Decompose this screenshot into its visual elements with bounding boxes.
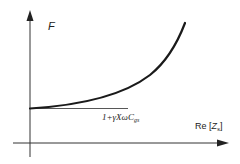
x-axis-label: Re [Zs] [195, 122, 223, 132]
x-axis-label-prefix: Re [195, 121, 207, 131]
y-axis-arrow-icon [27, 10, 34, 21]
x-axis-label-sub: s [217, 126, 220, 132]
asymptote-label-main: 1+γXωC [102, 112, 134, 122]
x-axis-arrow-icon [217, 140, 229, 147]
y-axis-label: F [48, 21, 55, 32]
f-curve [30, 23, 185, 109]
diagram-canvas [0, 0, 240, 164]
asymptote-label: 1+γXωCgs [102, 113, 139, 123]
asymptote-label-sub: gs [134, 117, 139, 123]
